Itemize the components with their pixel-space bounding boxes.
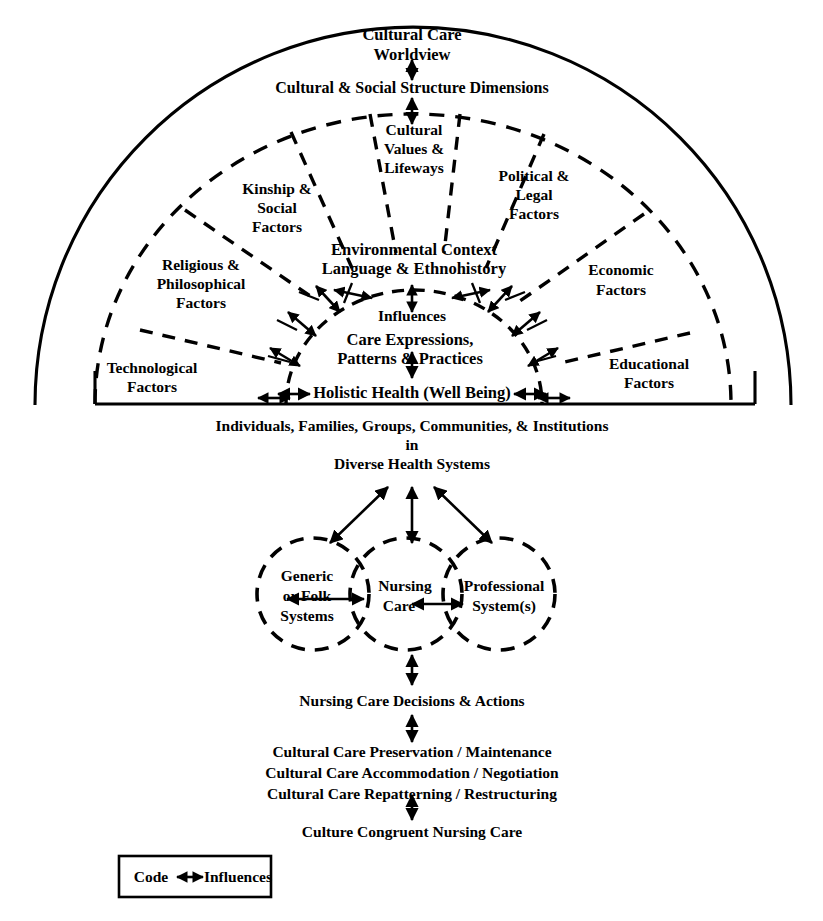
legend-influences-label: Influences xyxy=(204,868,272,885)
title-line-2: Worldview xyxy=(374,45,451,64)
sector-line: Cultural xyxy=(386,121,444,138)
divider-5 xyxy=(444,114,460,253)
sector-line: Educational xyxy=(609,355,690,372)
sector-line: Factors xyxy=(509,205,559,222)
sector-label-religious-philosophical: Religious & Philosophical Factors xyxy=(157,256,246,311)
circle-line: Care xyxy=(383,597,416,614)
sector-line: Political & xyxy=(498,167,569,184)
sector-line: Values & xyxy=(384,140,444,157)
sector-line: Factors xyxy=(176,294,226,311)
legend-code-label: Code xyxy=(134,868,169,885)
care-modes-list: Cultural Care Preservation / Maintenance… xyxy=(265,743,559,802)
circle-nursing-care xyxy=(350,538,462,650)
leininger-sunrise-diagram: Cultural Care Worldview Cultural & Socia… xyxy=(0,0,823,921)
sector-label-kinship-social: Kinship & Social Factors xyxy=(242,180,311,235)
circle-line: Systems xyxy=(280,607,333,624)
worldview-title: Cultural Care Worldview xyxy=(362,25,461,64)
sector-line: Kinship & xyxy=(242,180,311,197)
core-arrow-wl3 xyxy=(288,312,316,336)
population-line: Individuals, Families, Groups, Communiti… xyxy=(216,417,609,434)
sector-line: Factors xyxy=(127,378,177,395)
population-line: Diverse Health Systems xyxy=(334,455,490,472)
culture-congruent-nursing-care-label: Culture Congruent Nursing Care xyxy=(302,823,522,840)
core-tick-l2 xyxy=(277,320,297,330)
care-mode-item: Cultural Care Preservation / Maintenance xyxy=(272,743,551,760)
sector-line: Social xyxy=(257,199,297,216)
legend: Code Influences xyxy=(119,856,272,897)
core-line: Care Expressions, xyxy=(347,330,474,349)
sector-line: Factors xyxy=(624,374,674,391)
core-arrow-wr3 xyxy=(512,312,540,336)
circle-line: Professional xyxy=(464,577,545,594)
social-structure-dimensions-label: Cultural & Social Structure Dimensions xyxy=(275,79,548,96)
circle-label-generic-folk: Generic or Folk Systems xyxy=(280,567,333,624)
sector-line: Technological xyxy=(107,359,198,376)
sector-line: Philosophical xyxy=(157,275,246,292)
core-line: Patterns & Practices xyxy=(337,349,483,368)
circle-line: Nursing xyxy=(378,577,432,594)
arrow-fan-right xyxy=(434,487,492,543)
circle-line: System(s) xyxy=(472,597,536,615)
core-line: Environmental Context xyxy=(331,240,498,259)
sector-label-educational: Educational Factors xyxy=(609,355,690,391)
core-arrow-t-right xyxy=(452,290,490,298)
title-line-1: Cultural Care xyxy=(362,25,461,44)
circle-line: Generic xyxy=(281,567,334,584)
sector-line: Religious & xyxy=(162,256,240,273)
core-environment-label: Environmental Context Language & Ethnohi… xyxy=(322,240,507,278)
core-care-expressions-label: Care Expressions, Patterns & Practices xyxy=(337,330,483,368)
sector-line: Economic xyxy=(588,261,654,278)
diagram-canvas: Cultural Care Worldview Cultural & Socia… xyxy=(0,0,823,921)
nursing-care-decisions-label: Nursing Care Decisions & Actions xyxy=(299,692,524,709)
sector-line: Lifeways xyxy=(384,159,443,176)
sector-label-economic: Economic Factors xyxy=(588,261,654,298)
population-line: in xyxy=(406,436,419,453)
arrow-fan-left xyxy=(330,487,388,543)
care-mode-item: Cultural Care Repatterning / Restructuri… xyxy=(267,785,557,802)
sector-line: Factors xyxy=(596,281,646,298)
health-systems-fan-arrows xyxy=(330,487,492,543)
circle-label-nursing-care: Nursing Care xyxy=(378,577,432,614)
core-arrow-t-left xyxy=(334,290,372,298)
circle-line: or Folk xyxy=(283,587,332,604)
circle-professional xyxy=(443,538,555,650)
core-influences-label: Influences xyxy=(378,307,446,324)
circle-label-professional: Professional System(s) xyxy=(464,577,545,615)
population-label: Individuals, Families, Groups, Communiti… xyxy=(216,417,609,472)
core-holistic-health-label: Holistic Health (Well Being) xyxy=(313,383,511,402)
sector-label-cultural-values: Cultural Values & Lifeways xyxy=(384,121,444,176)
core-line: Language & Ethnohistory xyxy=(322,259,507,278)
sector-line: Legal xyxy=(515,186,553,203)
sector-line: Factors xyxy=(252,218,302,235)
sector-label-technological: Technological Factors xyxy=(107,359,198,395)
sector-label-political-legal: Political & Legal Factors xyxy=(498,167,569,222)
care-mode-item: Cultural Care Accommodation / Negotiatio… xyxy=(265,764,559,781)
